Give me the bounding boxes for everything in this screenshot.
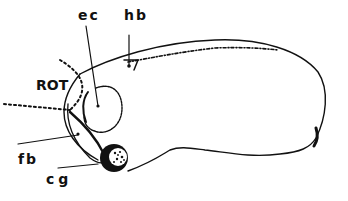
cement-gland [100,144,128,172]
tail-tip [314,128,317,146]
label-ec: ec [78,8,100,22]
forebrain-inner [70,112,104,154]
label-fb: fb [18,152,38,166]
fb-leader [18,135,78,144]
embryo-diagram: ec hb ROT fb cg [0,0,348,201]
ec-dot [96,104,99,107]
label-cg: cg [46,172,72,186]
fb-dot [76,132,79,135]
eye-cup-inner [83,92,88,122]
eye-cup [84,86,122,132]
hb-dot [127,64,131,68]
label-hb: hb [124,8,148,22]
cg-leader [58,164,98,168]
neural-tube-line [128,48,278,62]
label-rot: ROT [36,78,68,92]
rot-dotted-lower [4,104,70,110]
